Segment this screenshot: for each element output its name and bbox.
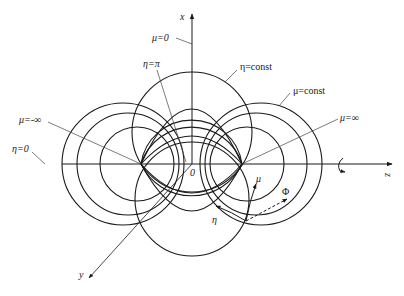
label-eta-const: η=const xyxy=(240,62,272,72)
leader-eta-zero xyxy=(32,152,45,164)
local-triad xyxy=(216,184,287,221)
x-axis-label: x xyxy=(180,12,184,22)
label-eta-pi: η=π xyxy=(143,59,160,69)
origin-label: 0 xyxy=(190,168,195,178)
z-axis-label: z xyxy=(383,173,393,177)
coordinate-diagram xyxy=(0,0,404,296)
label-mu-neg-inf: μ=-∞ xyxy=(19,115,41,125)
axes xyxy=(62,14,392,278)
leader-mu-const xyxy=(279,93,290,106)
phi-direction-arrow xyxy=(246,199,287,221)
triad-mu-label: μ xyxy=(256,174,261,184)
label-mu-pos-inf: μ=∞ xyxy=(340,113,359,123)
label-mu-zero: μ=0 xyxy=(152,33,169,43)
label-eta-zero: η=0 xyxy=(12,144,29,154)
leader-mu-zero xyxy=(176,38,192,44)
rotation-arrow-icon xyxy=(339,158,345,172)
y-axis-label: y xyxy=(79,270,83,280)
triad-eta-label: η xyxy=(212,215,217,225)
label-mu-const: μ=const xyxy=(293,86,325,96)
leader-eta-const xyxy=(225,70,237,82)
leader-lines xyxy=(32,38,338,164)
triad-phi-label: Φ xyxy=(282,187,289,197)
